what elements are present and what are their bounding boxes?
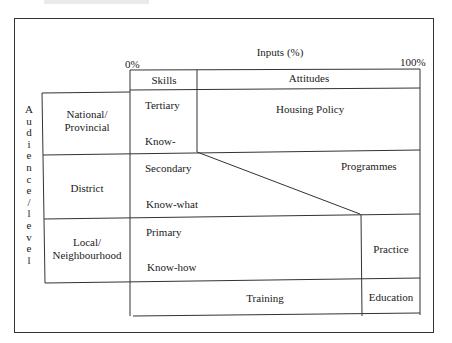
- vertical-letter: n: [23, 162, 35, 174]
- knowledge-know-how: Know-how: [147, 261, 197, 274]
- vertical-letter: e: [23, 243, 35, 255]
- region-practice: Practice: [362, 243, 420, 256]
- level-national-provincial: National/ Provincial: [44, 108, 130, 134]
- knowledge-know: Know-: [145, 135, 176, 148]
- region-programmes: Programmes: [341, 160, 397, 173]
- vertical-axis-label: A u d i e n c e / l e v e l: [23, 104, 35, 266]
- vertical-letter: e: [23, 220, 35, 232]
- region-training: Training: [200, 292, 330, 305]
- level-name-line: Local/: [44, 236, 130, 249]
- column-header-skills: Skills: [131, 74, 197, 87]
- axis-title: Inputs (%): [240, 46, 320, 59]
- level-district: District: [44, 182, 130, 195]
- knowledge-know-what: Know-what: [146, 198, 198, 211]
- column-header-attitudes: Attitudes: [198, 72, 420, 85]
- skill-primary: Primary: [146, 226, 181, 239]
- axis-max-label: 100%: [400, 56, 426, 69]
- vertical-letter: A: [23, 104, 35, 116]
- region-education: Education: [362, 291, 420, 304]
- region-housing-policy: Housing Policy: [276, 103, 344, 116]
- level-name-line: Provincial: [44, 121, 130, 134]
- skill-secondary: Secondary: [145, 162, 191, 175]
- vertical-letter: l: [23, 255, 35, 267]
- skill-tertiary: Tertiary: [145, 99, 180, 112]
- level-name-line: National/: [44, 108, 130, 121]
- level-local-neighbourhood: Local/ Neighbourhood: [44, 236, 130, 262]
- vertical-letter: e: [23, 185, 35, 197]
- level-name-line: Neighbourhood: [44, 249, 130, 262]
- axis-min-label: 0%: [125, 58, 140, 71]
